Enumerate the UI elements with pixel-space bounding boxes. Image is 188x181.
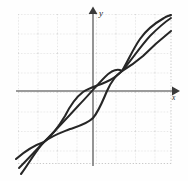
y-axis-label: y — [98, 8, 103, 18]
x-axis-label: x — [171, 93, 176, 102]
graph-figure: y x — [0, 0, 188, 181]
graph-canvas: y x — [0, 0, 188, 181]
y-axis-arrowhead — [89, 7, 98, 15]
